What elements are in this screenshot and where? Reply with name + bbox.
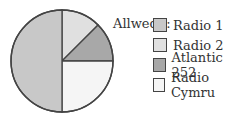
legend-item-radio-cymru: Radio Cymru: [153, 75, 242, 95]
legend-swatch: [153, 38, 167, 52]
pie-slice-radio-1: [11, 10, 62, 112]
legend-swatch: [153, 58, 166, 72]
legend-label: Radio Cymru: [171, 70, 242, 100]
legend-swatch: [153, 18, 167, 32]
legend-swatch: [153, 78, 165, 92]
legend: Radio 1 Radio 2 Atlantic 252 Radio Cymru: [153, 15, 242, 95]
legend-label: Radio 1: [173, 18, 224, 33]
legend-item-radio-1: Radio 1: [153, 15, 242, 35]
pie-chart: [0, 0, 125, 117]
